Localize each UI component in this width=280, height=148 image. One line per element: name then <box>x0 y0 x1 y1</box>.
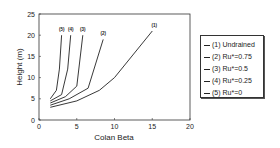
legend-line-icon <box>204 81 210 82</box>
legend-line-icon <box>204 45 210 46</box>
series-line <box>50 31 152 107</box>
chart-legend: (1) Undrained (2) Ru*=0.75 (3) Ru*=0.5 (… <box>200 35 264 98</box>
y-tick-label: 20 <box>27 32 35 39</box>
legend-item: (2) Ru*=0.75 <box>204 51 263 63</box>
legend-item: (4) Ru*=0.25 <box>204 75 263 87</box>
series-curve-label: (5) <box>59 27 65 32</box>
y-tick-label: 15 <box>27 53 35 60</box>
legend-line-icon <box>204 93 210 94</box>
y-axis-label: Height (m) <box>15 48 24 86</box>
legend-item: (3) Ru*=0.5 <box>204 63 263 75</box>
y-tick-label: 5 <box>31 95 35 102</box>
legend-item: (5) Ru*=0 <box>204 87 263 99</box>
legend-item: (1) Undrained <box>204 39 263 51</box>
y-tick-label: 25 <box>27 11 35 18</box>
x-tick-label: 10 <box>111 123 119 130</box>
series-curve-label: (4) <box>68 27 74 32</box>
series-curve-label: (1) <box>152 23 158 28</box>
series-line <box>50 35 70 101</box>
plot-series: (1)(2)(3)(4)(5) <box>50 23 157 107</box>
y-tick-label: 10 <box>27 74 35 81</box>
series-line <box>50 35 83 103</box>
legend-line-icon <box>204 69 210 70</box>
series-line <box>50 39 103 105</box>
x-axis-label: Colan Beta <box>94 133 134 142</box>
series-curve-label: (3) <box>80 27 86 32</box>
legend-line-icon <box>204 57 210 58</box>
plot-axes: 051015200510152025 <box>27 11 194 131</box>
x-tick-label: 5 <box>75 123 79 130</box>
series-curve-label: (2) <box>100 31 106 36</box>
x-tick-label: 15 <box>148 123 156 130</box>
x-tick-label: 0 <box>37 123 41 130</box>
x-tick-label: 20 <box>186 123 194 130</box>
series-line <box>50 35 61 99</box>
y-tick-label: 0 <box>31 117 35 124</box>
